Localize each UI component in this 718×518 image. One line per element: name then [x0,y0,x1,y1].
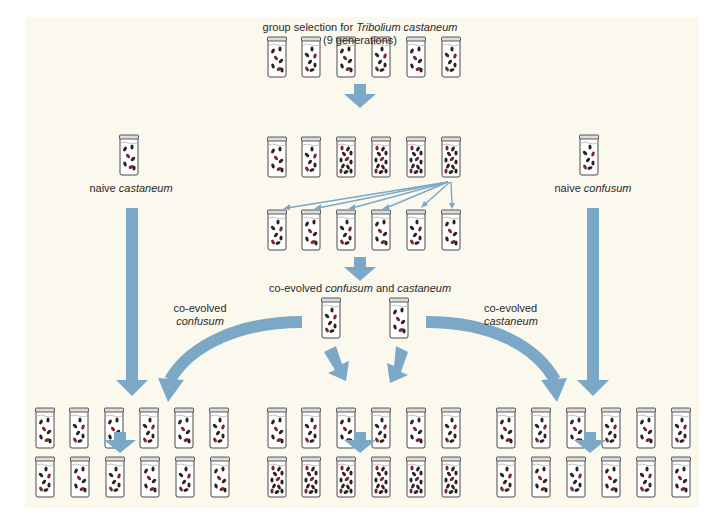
bottom-right-row-2 [497,457,691,497]
diagram-artwork [0,0,718,518]
species-confusum: confusum [325,282,373,294]
naive-confusum-arrow [577,208,609,396]
down-arrow-selection-1 [344,84,376,108]
species-name: castaneum [119,182,173,194]
coevolved-pair-label: co-evolved confusum and castaneum [260,282,460,295]
coevolved-down-arrow-left [324,346,349,381]
down-arrow-selection-2 [344,257,376,281]
naive-castaneum-label: naive castaneum [86,182,176,195]
coevolved-castaneum-curved-arrow [426,322,555,380]
title-species: Tribolium castaneum [356,21,457,33]
dispersal-arrows [287,182,452,208]
title-prefix: group selection for [263,21,357,33]
naive-confusum-label: naive confusum [548,182,638,195]
coevolved-text: co-evolved [484,302,537,314]
title-label: group selection for Tribolium castaneum … [255,21,465,47]
coevolved-castaneum-arrowhead [541,378,567,402]
coevolved-confusum-label: co-evolved confusum [160,302,240,328]
naive-castaneum-arrow [116,208,148,396]
coevolved-confusum-curved-arrow [170,322,302,380]
coevolved-castaneum-label: co-evolved castaneum [484,302,564,328]
species-name: confusum [584,182,632,194]
naive-castaneum-jar [120,135,139,175]
naive-confusum-jar [580,135,599,175]
bottom-left-row-2 [36,457,230,497]
coevolved-text: co-evolved [173,302,226,314]
naive-prefix: naive [89,182,118,194]
bottom-mid-row-2 [268,457,461,497]
species-castaneum: castaneum [397,282,451,294]
selection-row-3 [268,210,461,250]
selection-row-2 [268,137,461,177]
title-generations: (9 generations) [323,34,397,46]
species-name: confusum [176,315,224,327]
coevolved-confusum-arrowhead [158,378,184,402]
coevolved-confusum-jar [322,298,341,338]
coevolved-prefix: co-evolved [269,282,325,294]
naive-prefix: naive [554,182,583,194]
coevolved-down-arrow-right [387,346,408,383]
coevolved-castaneum-jar [390,298,409,338]
and-text: and [373,282,397,294]
species-name: castaneum [484,315,538,327]
